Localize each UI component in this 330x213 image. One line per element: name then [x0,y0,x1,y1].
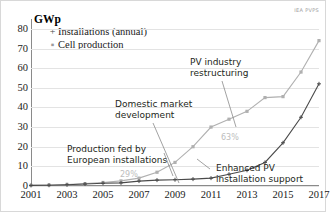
leader-line [222,81,236,127]
leader-line [197,159,210,169]
annotation-leader-lines [1,1,327,213]
leader-line [153,123,179,183]
leader-line [164,153,173,176]
